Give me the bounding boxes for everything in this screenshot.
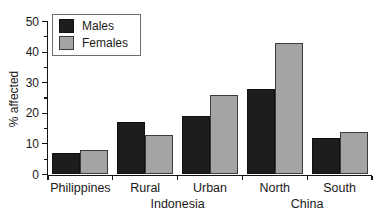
- x-tick: [47, 176, 48, 180]
- x-category-label-north: North: [242, 181, 307, 195]
- y-minor-tick: [44, 159, 47, 160]
- y-minor-tick: [44, 67, 47, 68]
- bar-males-rural: [117, 122, 145, 174]
- y-minor-tick: [44, 36, 47, 37]
- males-swatch-icon: [59, 19, 74, 33]
- legend-label-males: Males: [82, 19, 114, 33]
- females-swatch-icon: [59, 36, 74, 50]
- y-tick-label: 0: [13, 169, 39, 181]
- x-tick: [371, 176, 372, 180]
- x-category-label-south: South: [307, 181, 372, 195]
- legend-item-males: Males: [59, 19, 128, 33]
- y-major-tick: [42, 113, 47, 114]
- y-tick-label: 20: [13, 107, 39, 119]
- legend-item-females: Females: [59, 36, 128, 50]
- bar-females-rural: [145, 135, 173, 175]
- bar-females-south: [340, 132, 368, 175]
- group-label-china: China: [257, 197, 357, 211]
- x-tick: [177, 176, 178, 180]
- x-tick: [307, 176, 308, 180]
- y-axis-line: [47, 21, 49, 176]
- y-tick-label: 50: [13, 16, 39, 28]
- x-category-label-philippines: Philippines: [48, 181, 113, 195]
- x-tick: [242, 176, 243, 180]
- y-major-tick: [42, 82, 47, 83]
- bar-females-north: [275, 43, 303, 175]
- bar-males-urban: [182, 116, 210, 174]
- x-axis-line: [47, 175, 373, 177]
- y-tick-label: 10: [13, 138, 39, 150]
- x-category-label-urban: Urban: [178, 181, 243, 195]
- y-major-tick: [42, 143, 47, 144]
- bar-males-south: [312, 138, 340, 175]
- legend-label-females: Females: [82, 36, 128, 50]
- group-label-indonesia: Indonesia: [128, 197, 228, 211]
- x-tick: [112, 176, 113, 180]
- bar-males-north: [247, 89, 275, 175]
- x-category-label-rural: Rural: [113, 181, 178, 195]
- legend: Males Females: [52, 14, 141, 56]
- bar-chart-figure: % affected Males Females 01020304050Phil…: [0, 0, 380, 220]
- bar-females-urban: [210, 95, 238, 175]
- y-major-tick: [42, 174, 47, 175]
- y-major-tick: [42, 52, 47, 53]
- y-minor-tick: [44, 97, 47, 98]
- bar-males-philippines: [52, 153, 80, 174]
- y-tick-label: 40: [13, 46, 39, 58]
- y-tick-label: 30: [13, 77, 39, 89]
- bar-females-philippines: [80, 150, 108, 174]
- y-minor-tick: [44, 128, 47, 129]
- y-major-tick: [42, 21, 47, 22]
